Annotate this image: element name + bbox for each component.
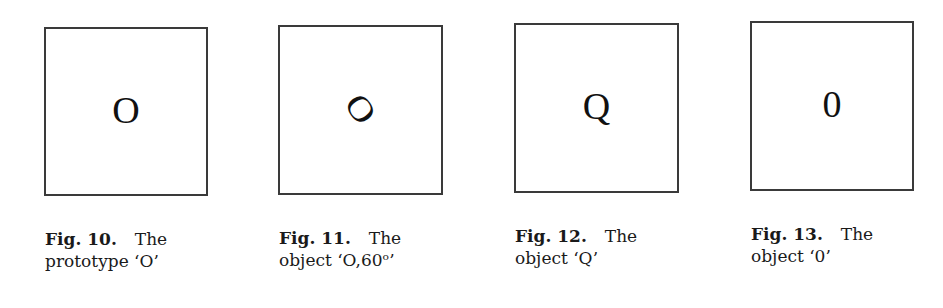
caption-title-word: The [369, 228, 401, 248]
figure-13-caption: Fig. 13.The object ‘0’ [751, 223, 931, 267]
figure-11-image-frame: O [278, 25, 443, 195]
caption-title-word: The [841, 224, 873, 244]
figure-label: Fig. 10. [45, 229, 117, 249]
caption-description: object ‘0’ [751, 246, 831, 266]
figure-11-caption: Fig. 11.The object ‘O,60ᵒ’ [279, 227, 459, 271]
figure-13-image-frame: 0 [750, 21, 914, 191]
digit-zero-glyph: 0 [752, 85, 912, 123]
rotated-letter-o-glyph: O [338, 88, 382, 131]
caption-description: prototype ‘O’ [45, 251, 159, 271]
glyph-wrapper: O [280, 88, 441, 126]
figure-10-image-frame: O [44, 27, 208, 196]
figure-label: Fig. 11. [279, 228, 351, 248]
figure-label: Fig. 13. [751, 224, 823, 244]
figure-12-image-frame: Q [514, 23, 679, 193]
caption-description: object ‘O,60ᵒ’ [279, 250, 395, 270]
letter-o-glyph: O [46, 91, 206, 129]
caption-title-word: The [605, 226, 637, 246]
figure-10-caption: Fig. 10.The prototype ‘O’ [45, 228, 225, 272]
letter-q-glyph: Q [516, 87, 677, 125]
caption-description: object ‘Q’ [515, 248, 598, 268]
figure-label: Fig. 12. [515, 226, 587, 246]
figure-12-caption: Fig. 12.The object ‘Q’ [515, 225, 695, 269]
caption-title-word: The [135, 229, 167, 249]
